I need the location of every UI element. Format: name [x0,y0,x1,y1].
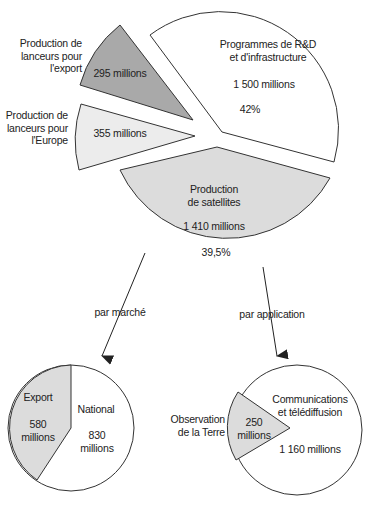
market-export-value-line1: 580 [21,418,54,431]
launch-europe-label: Production de lanceurs pour l'Europe [6,109,68,147]
earth-observation-label-line2: de la Terre [171,426,225,439]
market-export-value-line2: millions [21,431,54,444]
launch-export-label: Production de lanceurs pour l'export [20,37,82,75]
earth-observation-value-line1: 250 [237,416,270,429]
comms-label-line2: et télédiffusion [272,406,347,419]
arrow-label-par-application: par application [239,308,304,321]
satellites-value: 1 410 millions [183,220,244,233]
arrow-par-marche [102,253,145,356]
market-export-value: 580 millions [21,418,54,443]
market-export-label: Export [23,391,52,404]
launch-export-label-line3: l'export [20,62,82,75]
comms-label: Communications et télédiffusion [272,393,347,418]
launch-export-label-line2: lanceurs pour [20,50,82,63]
arrow-label-par-marche: par marché [94,306,145,319]
market-national-value-line2: millions [80,442,113,455]
satellites-title-line2: de satellites [188,196,241,209]
launch-export-value: 295 millions [93,67,146,80]
rd-title-line2: et d'infrastructure [220,51,316,64]
launch-europe-value: 355 millions [93,127,146,140]
satellites-percent: 39,5% [202,246,231,259]
comms-label-line1: Communications [272,393,347,406]
market-national-label: National [78,403,115,416]
rd-value: 1 500 millions [233,78,294,91]
satellites-title: Production de satellites [188,183,241,208]
earth-observation-value-line2: millions [237,429,270,442]
launch-europe-label-line1: Production de [6,109,68,122]
earth-observation-label-line1: Observation [171,413,225,426]
launch-export-label-line1: Production de [20,37,82,50]
market-national-value-line1: 830 [80,429,113,442]
launch-europe-label-line2: lanceurs pour [6,122,68,135]
rd-title-line1: Programmes de R&D [220,38,316,51]
earth-observation-value: 250 millions [237,416,270,441]
rd-percent: 42% [240,103,260,116]
satellites-title-line1: Production [188,183,241,196]
rd-title: Programmes de R&D et d'infrastructure [220,38,316,63]
comms-value: 1 160 millions [279,443,340,456]
market-national-value: 830 millions [80,429,113,454]
launch-europe-label-line3: l'Europe [6,134,68,147]
earth-observation-label: Observation de la Terre [171,413,225,438]
